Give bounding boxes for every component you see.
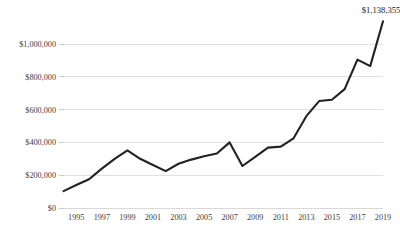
x-tick-label: 2001	[145, 213, 161, 222]
data-point-label: $1,138,355	[362, 5, 400, 15]
y-tick-label: $600,000	[25, 106, 56, 115]
series-line	[64, 21, 384, 191]
x-tick-label: 2007	[221, 213, 237, 222]
y-axis-tick-labels: $1,000,000$800,000$600,000$400,000$200,0…	[19, 40, 56, 213]
x-tick-label: 2015	[324, 213, 340, 222]
x-tick-label: 2009	[247, 213, 263, 222]
y-tick-label: $1,000,000	[19, 40, 56, 49]
data-point-labels: $1,138,355	[362, 5, 400, 15]
x-tick-label: 2003	[170, 213, 186, 222]
y-tick-label: $800,000	[25, 73, 56, 82]
y-tick-label: $200,000	[25, 171, 56, 180]
y-tick-label: $400,000	[25, 138, 56, 147]
x-tick-label: 2017	[349, 213, 365, 222]
gridlines	[59, 44, 383, 208]
y-tick-label: $0	[48, 204, 56, 213]
x-tick-label: 2005	[196, 213, 212, 222]
x-tick-label: 2019	[375, 213, 391, 222]
x-tick-label: 2011	[273, 213, 289, 222]
x-tick-label: 1999	[119, 213, 135, 222]
line-chart: $1,000,000$800,000$600,000$400,000$200,0…	[0, 0, 400, 238]
data-series	[64, 21, 384, 191]
x-tick-label: 1997	[94, 213, 110, 222]
chart-canvas: $1,000,000$800,000$600,000$400,000$200,0…	[0, 0, 400, 238]
x-tick-label: 2013	[298, 213, 314, 222]
x-tick-label: 1995	[68, 213, 84, 222]
x-axis-tick-labels: 1995199719992001200320052007200920112013…	[68, 213, 391, 222]
